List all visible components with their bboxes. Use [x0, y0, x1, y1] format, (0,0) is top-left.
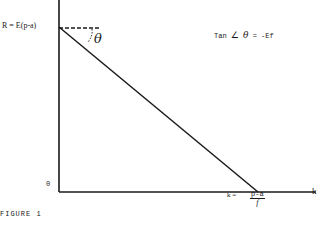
tan-rhs: = -Ef [253, 32, 274, 40]
k-denominator: f [250, 199, 265, 207]
figure-caption: FIGURE 1 [0, 211, 42, 216]
theta-label: θ [94, 32, 102, 45]
angle-symbol: ∠ [231, 30, 239, 40]
k-intercept-prefix: k = [227, 192, 236, 199]
tan-equation: Tan ∠ θ = -Ef [214, 31, 274, 40]
tan-label: Tan [214, 32, 227, 40]
demand-line [59, 27, 258, 192]
angle-arc [88, 29, 92, 42]
r-intercept-label: R = E(p-a) [2, 22, 36, 30]
k-fraction: p-a f [250, 191, 265, 207]
x-axis-label: k [312, 187, 317, 196]
tan-theta: θ [243, 30, 248, 40]
origin-label: 0 [46, 181, 50, 188]
